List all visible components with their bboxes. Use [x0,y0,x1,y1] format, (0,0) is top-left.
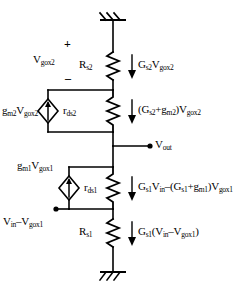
current-arrow-rs1 [128,222,136,246]
current-rds2-label: (Gs2+gm2)Vgox2 [138,104,201,115]
resistor-rs2-label: Rs2 [79,59,92,70]
vgox2-plus-sign: + [64,38,71,50]
vin-label: Vin–Vgox1 [3,216,43,227]
vgox2-label: Vgox2 [33,54,55,65]
dependent-source-gm1-symbol [59,176,79,200]
vgox2-minus-sign: – [65,72,71,84]
vout-label: Vout [155,139,171,150]
current-arrow-rs2 [128,55,136,79]
resistor-rds1-symbol [107,167,119,209]
vout-terminal-group [113,143,153,148]
resistor-rs2-symbol [107,52,119,80]
resistor-rs1-label: Rs1 [79,226,92,237]
circuit-diagram-canvas: + Vgox2 – Rs2 Gs2Vgox2 gm2Vgox2 rds2 (Gs… [0,0,243,295]
current-rds1-label: Gs1Vin–(Gs1+gm1)Vgox1 [138,181,233,192]
source-gm1-label: gm1Vgox1 [17,160,53,171]
ground-symbol-top [100,13,125,20]
current-rs2-label: Gs2Vgox2 [138,59,173,70]
resistor-rds2-symbol [107,90,119,132]
resistor-rs1-symbol [107,219,119,247]
current-arrow-rds2 [128,100,136,124]
resistor-rds2-label: rds2 [63,105,76,116]
resistor-rds1-label: rds1 [84,182,97,193]
ground-symbol-bottom [100,272,125,280]
current-arrow-rds1 [128,177,136,201]
source-gm2-label: gm2Vgox2 [2,105,38,116]
vin-terminal-group [53,206,69,211]
current-rs1-label: Gs1(Vin–Vgox1) [138,226,199,237]
dependent-source-gm2-symbol [38,99,58,123]
circuit-schematic-svg [0,0,243,295]
